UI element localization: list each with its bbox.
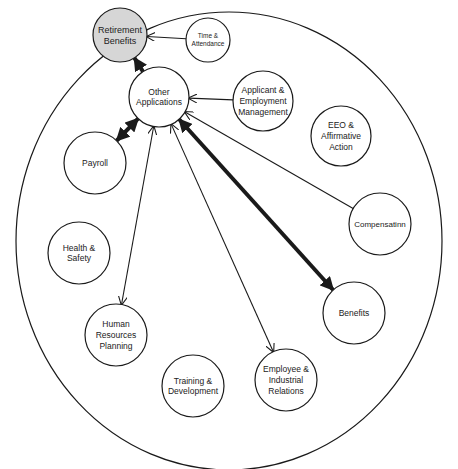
- node-label: Applicant &: [242, 85, 285, 95]
- node-label: Benefits: [339, 308, 370, 318]
- diagram-canvas: RetirementBenefitsTime &AttendanceOtherA…: [0, 0, 458, 469]
- node-label: Safety: [67, 253, 92, 263]
- node-label: Other: [148, 87, 169, 97]
- node-time: Time &Attendance: [186, 18, 230, 62]
- arrow-applicant-to-other: [189, 98, 233, 100]
- node-label: Payroll: [82, 158, 108, 168]
- node-label: Development: [168, 386, 219, 396]
- node-label: Affirmative: [321, 131, 361, 141]
- node-health: Health &Safety: [48, 222, 110, 284]
- node-label: Human: [102, 319, 130, 329]
- application-nodes: RetirementBenefitsTime &AttendanceOtherA…: [48, 8, 411, 417]
- arrow-time-to-retirement: [147, 37, 186, 39]
- arrow-other-to-employee: [171, 124, 273, 351]
- node-label: Attendance: [192, 40, 225, 47]
- arrow-other-to-benefits: [179, 119, 333, 290]
- node-label: Action: [329, 142, 353, 152]
- arrow-other-to-hrplanning: [122, 127, 154, 305]
- hr-systems-diagram: RetirementBenefitsTime &AttendanceOtherA…: [0, 0, 458, 469]
- node-label: Applications: [136, 97, 182, 107]
- node-training: Training &Development: [162, 355, 224, 417]
- node-label: Employee &: [263, 364, 309, 374]
- node-label: Time &: [198, 32, 219, 39]
- node-label: Resources: [96, 330, 137, 340]
- arrow-other-to-retirement: [134, 58, 143, 72]
- node-label: EEO &: [328, 120, 354, 130]
- node-hrplanning: HumanResourcesPlanning: [85, 304, 147, 366]
- node-compensation: Compensatinn: [349, 193, 411, 255]
- node-other: OtherApplications: [129, 67, 189, 127]
- node-eeo: EEO &AffirmativeAction: [311, 106, 371, 166]
- node-benefits: Benefits: [323, 282, 385, 344]
- node-label: Employment: [239, 96, 287, 106]
- arrow-other-to-payroll: [117, 119, 139, 141]
- node-applicant: Applicant &EmploymentManagement: [233, 71, 293, 131]
- node-payroll: Payroll: [64, 132, 126, 194]
- node-label: Retirement: [98, 25, 143, 35]
- node-label: Training &: [174, 376, 213, 386]
- node-label: Benefits: [104, 36, 137, 46]
- node-employee: Employee &IndustrialRelations: [255, 349, 317, 411]
- node-retirement: RetirementBenefits: [93, 8, 147, 62]
- node-label: Planning: [99, 341, 132, 351]
- node-label: Management: [238, 107, 288, 117]
- node-label: Relations: [268, 386, 303, 396]
- node-label: Compensatinn: [354, 220, 406, 229]
- node-label: Industrial: [269, 375, 304, 385]
- node-label: Health &: [63, 243, 96, 253]
